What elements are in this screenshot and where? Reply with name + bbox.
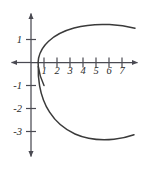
- parabola-graph-figure: 1 2 3 4 5 6 7 1 -1 -2 -3: [0, 0, 145, 171]
- x-tick-label-7: 7: [119, 66, 124, 77]
- y-tick-label-neg3: -3: [13, 126, 22, 137]
- parabola-curve: [38, 24, 135, 139]
- x-tick-label-3: 3: [67, 66, 72, 77]
- x-tick-label-6: 6: [106, 66, 111, 77]
- parabola-lower-branch: [38, 67, 134, 140]
- y-tick-label-1: 1: [17, 34, 22, 45]
- x-tick-label-4: 4: [80, 66, 85, 77]
- x-tick-label-5: 5: [93, 66, 98, 77]
- x-tick-label-2: 2: [54, 66, 59, 77]
- x-tick-label-1: 1: [41, 66, 46, 77]
- y-tick-label-neg2: -2: [13, 103, 22, 114]
- y-tick-label-neg1: -1: [13, 80, 22, 91]
